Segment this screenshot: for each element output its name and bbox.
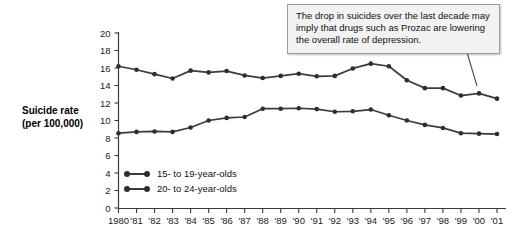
legend-marker-icon bbox=[124, 169, 150, 179]
data-point-marker bbox=[278, 106, 283, 111]
data-point-marker bbox=[242, 73, 247, 78]
series-polyline bbox=[119, 64, 498, 99]
x-tick-label: '91 bbox=[311, 215, 323, 226]
prozac-callout-box: The drop in suicides over the last decad… bbox=[287, 4, 500, 54]
x-tick-label: 1980 bbox=[108, 215, 129, 226]
data-point-marker bbox=[405, 118, 410, 123]
data-point-marker bbox=[260, 76, 265, 81]
data-point-marker bbox=[332, 74, 337, 79]
chart-legend: 15- to 19-year-olds 20- to 24-year-olds bbox=[124, 166, 237, 196]
data-series bbox=[116, 106, 499, 136]
data-point-marker bbox=[459, 93, 464, 98]
y-tick-label: 8 bbox=[105, 133, 110, 144]
x-tick-label: '98 bbox=[437, 215, 449, 226]
x-tick-label: '88 bbox=[256, 215, 268, 226]
legend-label-20-24: 20- to 24-year-olds bbox=[157, 183, 237, 194]
data-point-marker bbox=[170, 76, 175, 81]
data-point-marker bbox=[116, 64, 121, 69]
data-point-marker bbox=[387, 113, 392, 118]
data-point-marker bbox=[423, 86, 428, 91]
data-point-marker bbox=[459, 131, 464, 136]
data-series-group bbox=[116, 61, 499, 136]
y-tick-label: 18 bbox=[100, 45, 111, 56]
data-point-marker bbox=[423, 123, 428, 128]
x-tick-label: '89 bbox=[275, 215, 287, 226]
y-tick-label: 4 bbox=[105, 168, 110, 179]
data-point-marker bbox=[314, 107, 319, 112]
y-tick-label: 16 bbox=[100, 63, 111, 74]
data-point-marker bbox=[188, 68, 193, 73]
x-tick-group: 1980'81'82'83'84'85'86'87'88'89'90'91'92… bbox=[108, 208, 503, 226]
data-point-marker bbox=[296, 71, 301, 76]
x-tick-label: '99 bbox=[455, 215, 467, 226]
y-tick-label: 14 bbox=[100, 80, 111, 91]
x-tick-label: '86 bbox=[220, 215, 232, 226]
data-point-marker bbox=[314, 74, 319, 79]
data-point-marker bbox=[260, 106, 265, 111]
legend-label-15-19: 15- to 19-year-olds bbox=[157, 168, 237, 179]
x-axis: 1980'81'82'83'84'85'86'87'88'89'90'91'92… bbox=[108, 208, 506, 226]
data-point-marker bbox=[332, 109, 337, 114]
data-point-marker bbox=[224, 69, 229, 74]
legend-item-20-24: 20- to 24-year-olds bbox=[124, 181, 237, 196]
data-point-marker bbox=[405, 78, 410, 83]
data-point-marker bbox=[206, 118, 211, 123]
data-point-marker bbox=[477, 131, 482, 136]
y-tick-label: 20 bbox=[100, 28, 111, 39]
y-tick-label: 0 bbox=[105, 203, 110, 214]
data-point-marker bbox=[170, 130, 175, 135]
callout-text: The drop in suicides over the last decad… bbox=[296, 10, 492, 47]
x-tick-label: '00 bbox=[473, 215, 485, 226]
x-tick-label: '97 bbox=[419, 215, 431, 226]
data-point-marker bbox=[369, 61, 374, 66]
data-point-marker bbox=[369, 107, 374, 112]
x-tick-label: '85 bbox=[202, 215, 214, 226]
data-point-marker bbox=[206, 70, 211, 75]
data-point-marker bbox=[477, 91, 482, 96]
x-tick-label: '90 bbox=[293, 215, 305, 226]
y-tick-label: 10 bbox=[100, 115, 111, 126]
data-point-marker bbox=[441, 126, 446, 131]
data-point-marker bbox=[351, 109, 356, 114]
data-point-marker bbox=[152, 129, 157, 134]
x-tick-label: '81 bbox=[130, 215, 142, 226]
x-tick-label: '84 bbox=[184, 215, 196, 226]
x-tick-label: '87 bbox=[238, 215, 250, 226]
data-point-marker bbox=[116, 131, 121, 136]
chart-container: Suicide rate (per 100,000) 0246810121416… bbox=[0, 0, 519, 233]
callout-pointer-line bbox=[466, 49, 477, 86]
x-tick-label: '83 bbox=[166, 215, 178, 226]
y-tick-label: 2 bbox=[105, 185, 110, 196]
y-tick-label: 6 bbox=[105, 150, 110, 161]
data-point-marker bbox=[387, 64, 392, 69]
series-polyline bbox=[119, 108, 498, 134]
x-tick-label: '82 bbox=[148, 215, 160, 226]
legend-item-15-19: 15- to 19-year-olds bbox=[124, 166, 237, 181]
data-point-marker bbox=[278, 74, 283, 79]
data-point-marker bbox=[224, 116, 229, 121]
data-point-marker bbox=[134, 130, 139, 135]
data-point-marker bbox=[351, 66, 356, 71]
data-point-marker bbox=[441, 86, 446, 91]
data-point-marker bbox=[134, 67, 139, 72]
legend-marker-icon bbox=[124, 184, 150, 194]
y-tick-label: 12 bbox=[100, 98, 111, 109]
y-axis: 02468101214161820 bbox=[100, 28, 119, 214]
y-tick-group: 02468101214161820 bbox=[100, 28, 119, 214]
x-tick-label: '95 bbox=[383, 215, 395, 226]
x-tick-label: '01 bbox=[491, 215, 503, 226]
data-point-marker bbox=[188, 125, 193, 130]
x-tick-label: '96 bbox=[401, 215, 413, 226]
data-point-marker bbox=[242, 115, 247, 120]
x-tick-label: '93 bbox=[347, 215, 359, 226]
x-tick-label: '92 bbox=[329, 215, 341, 226]
data-point-marker bbox=[495, 96, 500, 101]
data-point-marker bbox=[152, 72, 157, 77]
data-point-marker bbox=[495, 132, 500, 137]
data-point-marker bbox=[296, 106, 301, 111]
x-tick-label: '94 bbox=[365, 215, 377, 226]
data-series bbox=[116, 61, 499, 101]
